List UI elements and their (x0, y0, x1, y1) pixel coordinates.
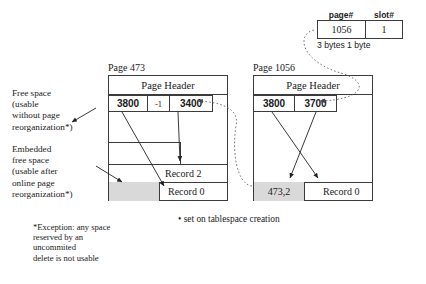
page-1056-forward-pointer-label: 473,2 (268, 186, 291, 197)
page-473-caption: Page 473 (108, 62, 145, 73)
rid-table-headers: page# slot# (317, 10, 403, 20)
page-1056-slot-1: 3700 (295, 95, 337, 112)
page-473-header: Page Header (109, 76, 227, 95)
diagram-canvas: page# slot# 1056 1 3 bytes 1 byte Page 4… (0, 0, 426, 284)
page-473-freespace-step-top (109, 142, 180, 143)
page-473-record2-label: Record 2 (165, 168, 201, 179)
page-473-box: Page Header 3800 -1 3400 Record 2 Record… (108, 75, 228, 201)
page-473-record0-label: Record 0 (168, 186, 204, 197)
rid-byte-note: 3 bytes 1 byte (317, 40, 403, 50)
embedded-free-space-annotation: Embedded free space (usable after online… (12, 144, 108, 200)
page-473-slot-1: -1 (148, 95, 170, 112)
rid-header-slot: slot# (365, 10, 403, 20)
page-1056-box: Page Header 3800 3700 473,2 Record 0 (253, 75, 373, 201)
page-473-slot-2: 3400 (170, 95, 213, 112)
page-1056-header: Page Header (254, 76, 372, 95)
page-1056-slot-0: 3800 (253, 95, 295, 112)
page-473-slot-0: 3800 (108, 95, 148, 112)
rid-table: page# slot# 1056 1 3 bytes 1 byte (317, 10, 403, 50)
free-space-annotation: Free space (usable without page reorgani… (12, 88, 106, 133)
tablespace-bullet-note: • set on tablespace creation (178, 214, 280, 224)
page-473-freespace-step-right (180, 142, 181, 164)
page-473-slot-directory: 3800 -1 3400 (108, 95, 213, 112)
page-473-record2-row: Record 2 (109, 164, 228, 182)
page-1056-slot-directory: 3800 3700 (253, 95, 337, 112)
page-1056-caption: Page 1056 (253, 62, 295, 73)
footnote-exception: *Exception: any space reserved by an unc… (33, 222, 163, 263)
rid-header-page: page# (317, 10, 365, 20)
page-473-record0-row: Record 0 (109, 182, 228, 201)
page-473-embedded-free-space (109, 182, 160, 201)
page-1056-record0-row: 473,2 Record 0 (254, 182, 373, 201)
rid-value-slot: 1 (365, 21, 402, 38)
rid-table-row: 1056 1 (317, 20, 403, 39)
page-1056-record0-label: Record 0 (323, 186, 359, 197)
rid-value-page: 1056 (318, 21, 365, 38)
page-1056-forward-pointer-cell: 473,2 (254, 182, 305, 201)
